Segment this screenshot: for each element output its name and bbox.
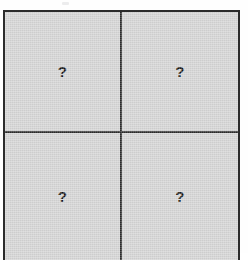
two-by-two-grid-figure: ? ? ? ? <box>3 10 240 260</box>
question-mark-glyph: ? <box>175 64 184 79</box>
question-mark-glyph: ? <box>58 189 67 204</box>
grid-cell-bottom-left[interactable]: ? <box>5 133 122 260</box>
question-mark-glyph: ? <box>175 189 184 204</box>
grid-cell-top-right[interactable]: ? <box>122 12 239 133</box>
scan-artifact-speck <box>62 2 69 5</box>
grid-cell-top-left[interactable]: ? <box>5 12 122 133</box>
grid-cell-bottom-right[interactable]: ? <box>122 133 239 260</box>
question-mark-glyph: ? <box>58 64 67 79</box>
